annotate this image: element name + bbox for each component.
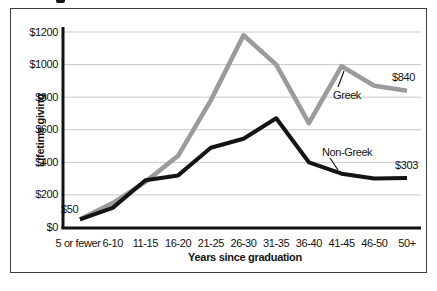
annotation--840: $840 (392, 71, 415, 83)
annotation--303: $303 (395, 159, 418, 171)
annotation-greek: Greek (333, 89, 361, 101)
annotation--50: $50 (61, 203, 78, 215)
y-tick-label-400: $400 (18, 156, 58, 169)
y-tick-label-1000: $1000 (18, 58, 58, 71)
annotation-non-greek: Non-Greek (322, 146, 372, 158)
y-tick-label-200: $200 (18, 188, 58, 201)
y-tick-label-1200: $1200 (18, 26, 58, 39)
x-tick-label-50+: 50+ (379, 237, 435, 250)
y-tick-label-800: $800 (18, 91, 58, 104)
y-tick-label-0: $0 (18, 221, 58, 234)
y-tick-label-600: $600 (18, 123, 58, 136)
series-line-non-greek (80, 118, 407, 219)
x-axis-title: Years since graduation (165, 251, 325, 263)
lifetime-giving-chart: Lifetime giving Years since graduation $… (0, 0, 437, 291)
